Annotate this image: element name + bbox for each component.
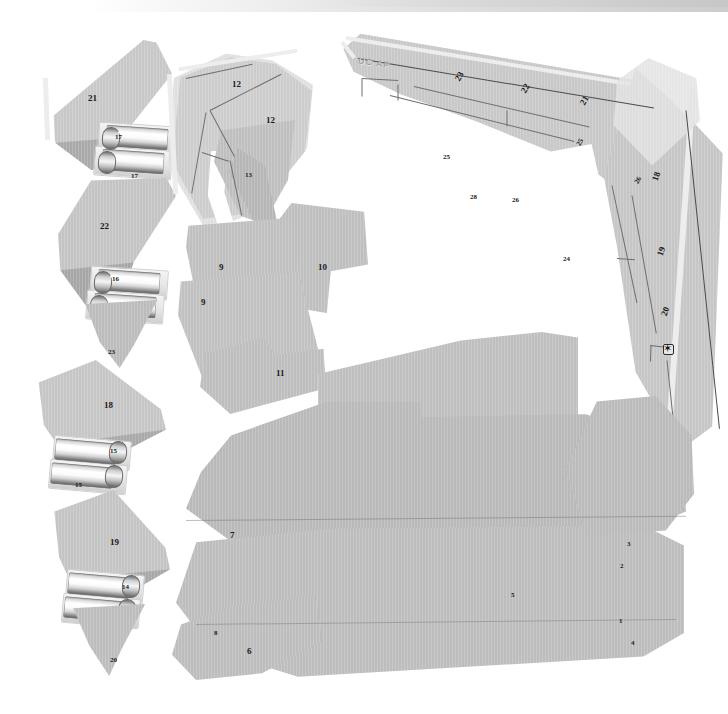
callout-6: 6 — [247, 647, 252, 656]
part-panel-21-edge-highlight — [43, 78, 50, 140]
callout-5: 5 — [511, 592, 515, 599]
callout-20-left: 20 — [110, 657, 117, 664]
callout-16-upper: 16 — [112, 276, 119, 283]
callout-8: 8 — [214, 630, 218, 637]
star-icon: ✶ — [662, 343, 673, 354]
callout-19-left: 19 — [110, 538, 119, 547]
callout-12-right: 12 — [266, 116, 275, 125]
callout-28-free: 28 — [470, 194, 477, 201]
callout-4: 4 — [631, 640, 635, 647]
scan-artifact-streak-2 — [300, 0, 728, 7]
callout-17-upper: 17 — [115, 134, 122, 141]
callout-22-left: 22 — [100, 222, 109, 231]
callout-2: 2 — [620, 563, 624, 570]
callout-1: 1 — [619, 618, 623, 625]
callout-3: 3 — [627, 541, 631, 548]
callout-21-left: 21 — [88, 94, 97, 103]
callout-7: 7 — [230, 531, 235, 540]
callout-18-left: 18 — [104, 401, 113, 410]
figure-canvas: 21 17 17 22 16 16 23 18 — [0, 0, 728, 714]
hinge-assembly-15 — [47, 436, 133, 500]
callout-23-left: 23 — [108, 349, 115, 356]
scan-artifact-streak — [0, 0, 728, 12]
callout-9-upper: 9 — [219, 263, 224, 272]
callout-14-upper: 14 — [122, 584, 129, 591]
callout-15-lower: 15 — [75, 482, 82, 489]
callout-26-free: 26 — [512, 197, 519, 204]
boom-scribe-inner-2 — [362, 79, 363, 97]
boom-scribe-inner-6 — [507, 111, 508, 127]
callout-13: 13 — [245, 172, 252, 179]
callout-12-top: 12 — [232, 80, 241, 89]
callout-24-free: 24 — [563, 256, 570, 263]
callout-17-lower: 17 — [131, 173, 138, 180]
callout-11: 11 — [276, 369, 285, 378]
callout-10: 10 — [318, 263, 327, 272]
callout-25-free: 25 — [443, 154, 450, 161]
callout-15-upper: 15 — [110, 448, 117, 455]
callout-9-lower: 9 — [201, 298, 206, 307]
